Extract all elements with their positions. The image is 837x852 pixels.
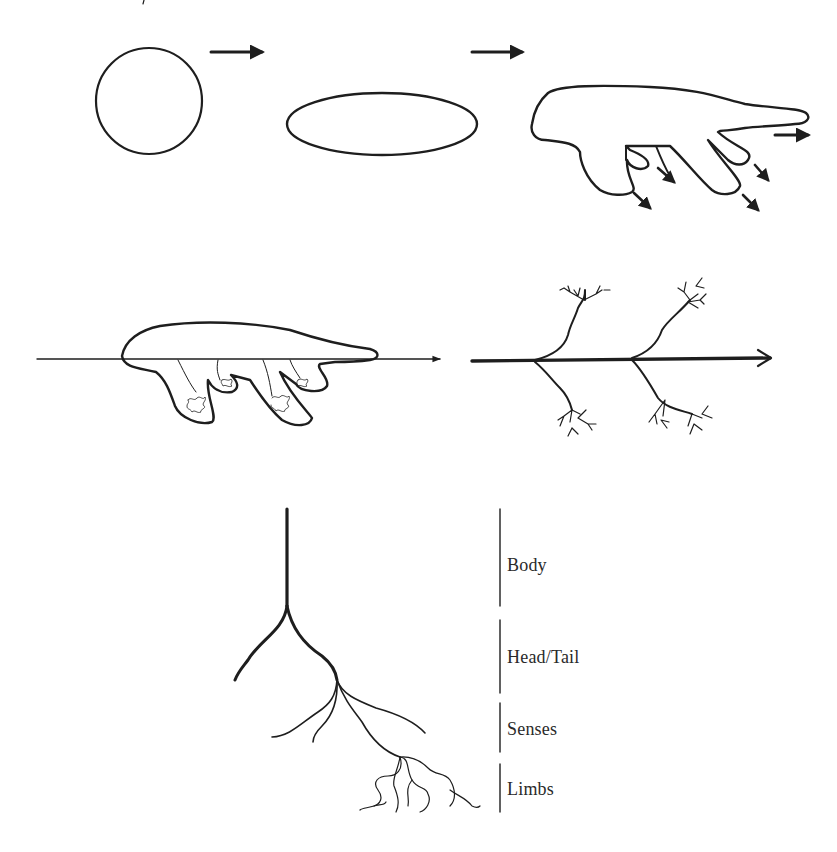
development-diagram xyxy=(0,0,837,852)
segment-label-limbs: Limbs xyxy=(507,779,554,800)
top-mark xyxy=(143,0,144,4)
stage-organism-on-axis xyxy=(122,323,378,426)
segment-label-head-tail: Head/Tail xyxy=(507,647,580,668)
segment-label-body: Body xyxy=(507,555,547,576)
body-plan-tree xyxy=(235,509,480,812)
segment-label-senses: Senses xyxy=(507,719,557,740)
stage-branching-axis xyxy=(472,278,771,436)
stage-sphere xyxy=(96,48,202,154)
stage-ellipse xyxy=(287,93,477,155)
